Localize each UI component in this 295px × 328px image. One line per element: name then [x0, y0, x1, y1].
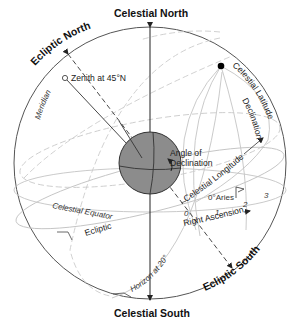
- aries-label: 0°Aries: [208, 193, 234, 202]
- celestial-north-label: Celestial North: [114, 7, 188, 19]
- zenith-label: Zenith at 45°N: [71, 73, 126, 83]
- ecliptic-north-label: Ecliptic North: [28, 19, 92, 67]
- ecliptic-tick-mark: [57, 232, 72, 240]
- celestial-sphere-diagram: Celestial North Celestial South Ecliptic…: [0, 0, 295, 328]
- aries-flag-icon: [236, 187, 244, 198]
- angle-of-declination-label-2: Declination: [170, 158, 213, 168]
- celestial-equator-label: Celestial Equator: [52, 201, 114, 221]
- celestial-latitude-label: Celestial Latitude: [231, 60, 276, 121]
- zero-label: 0: [184, 209, 189, 218]
- diagram-canvas: Celestial North Celestial South Ecliptic…: [0, 0, 295, 328]
- ra-hour-1: 1: [215, 208, 219, 217]
- meridian-label: Meridian: [33, 88, 53, 121]
- star-position-icon: [218, 63, 225, 70]
- ra-hour-2: 2: [242, 200, 248, 209]
- celestial-south-label: Celestial South: [114, 307, 190, 319]
- ecliptic-south-label: Ecliptic South: [201, 243, 262, 293]
- zenith-marker-icon: [62, 75, 67, 80]
- ra-hour-3: 3: [264, 191, 269, 200]
- right-ascension-arrow-icon: [244, 211, 250, 212]
- angle-of-declination-label-1: Angle of: [170, 148, 202, 158]
